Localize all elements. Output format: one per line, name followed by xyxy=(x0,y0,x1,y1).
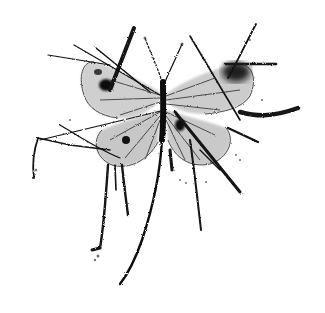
ink-strokes xyxy=(33,24,298,250)
butterfly-illustration xyxy=(0,0,325,313)
illustration-canvas xyxy=(0,0,325,313)
lower-right-wing xyxy=(166,110,230,165)
